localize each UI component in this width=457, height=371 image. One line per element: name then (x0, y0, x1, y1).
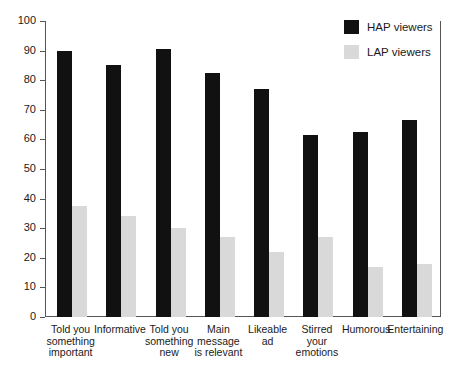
bar-lap-viewers (72, 206, 87, 317)
bar-lap-viewers (121, 216, 136, 317)
y-axis-tick-label: 20 (24, 251, 36, 264)
y-axis: 0102030405060708090100 (0, 21, 45, 317)
bar-hap-viewers (254, 89, 269, 317)
bar-group (46, 21, 95, 317)
x-axis-label: Entertaining (385, 324, 446, 336)
bar-group (145, 21, 194, 317)
bar-hap-viewers (57, 51, 72, 317)
bar-hap-viewers (156, 49, 171, 317)
bar-lap-viewers (220, 237, 235, 317)
y-axis-tick-label: 80 (24, 73, 36, 86)
bar-group (292, 21, 341, 317)
y-axis-tick-label: 60 (24, 132, 36, 145)
bar-hap-viewers (205, 73, 220, 317)
bar-lap-viewers (269, 252, 284, 317)
bar-group (95, 21, 144, 317)
y-axis-tick-label: 0 (30, 310, 36, 323)
y-axis-tick-label: 50 (24, 162, 36, 175)
y-axis-tick-mark (40, 317, 45, 318)
bar-group (243, 21, 292, 317)
bar-group (342, 21, 391, 317)
bar-hap-viewers (402, 120, 417, 317)
bars-layer (46, 21, 440, 317)
y-axis-tick-label: 100 (18, 14, 36, 27)
bar-hap-viewers (106, 65, 121, 317)
bar-lap-viewers (171, 228, 186, 317)
bar-group (391, 21, 440, 317)
x-axis-labels: Told yousomethingimportantInformativeTol… (46, 324, 440, 370)
x-axis-label-line: Entertaining (385, 324, 446, 336)
x-axis-label-line: is relevant (188, 347, 249, 359)
x-axis-label-line: emotions (286, 347, 347, 359)
y-axis-tick-label: 40 (24, 192, 36, 205)
bar-hap-viewers (303, 135, 318, 317)
y-axis-tick-label: 70 (24, 103, 36, 116)
bar-chart: HAP viewers LAP viewers 0102030405060708… (0, 0, 457, 371)
x-axis-label-line: important (40, 347, 101, 359)
y-axis-tick-label: 90 (24, 44, 36, 57)
bar-lap-viewers (417, 264, 432, 317)
y-axis-tick-label: 10 (24, 280, 36, 293)
bar-hap-viewers (353, 132, 368, 317)
bar-group (194, 21, 243, 317)
y-axis-tick-label: 30 (24, 221, 36, 234)
bar-lap-viewers (368, 267, 383, 317)
bar-lap-viewers (318, 237, 333, 317)
